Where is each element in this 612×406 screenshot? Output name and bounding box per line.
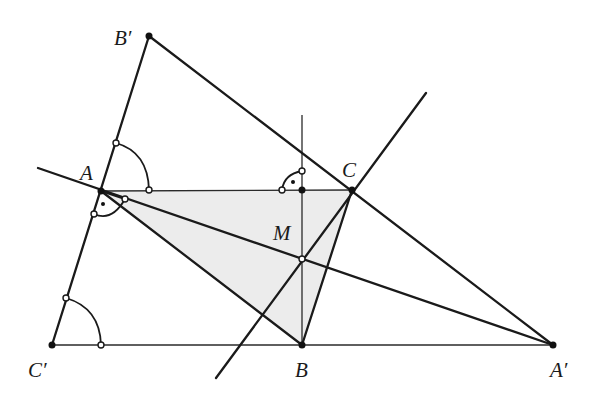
label-b-prime: B′ [114,26,132,50]
arc-end-marker [113,140,119,146]
point-a [98,188,105,195]
geometry-diagram: B′ A C M C′ B A′ [0,0,612,406]
right-angle-dot [291,180,295,184]
arc-end-marker [279,187,285,193]
point-b-prime [146,33,153,40]
foot-of-perpendicular [299,187,306,194]
label-c: C [342,158,357,182]
point-a-prime [550,342,557,349]
arc-end-marker [122,196,128,202]
label-a: A [78,161,93,185]
angle-a-dot [101,202,105,206]
shaded-triangle-acb [101,190,352,345]
point-b [299,342,306,349]
arc-end-marker [63,295,69,301]
point-c-prime [49,342,56,349]
angle-arc-at-c-prime [66,298,101,345]
label-a-prime: A′ [548,358,568,382]
label-c-prime: C′ [28,358,47,382]
label-m: M [272,221,292,245]
angle-arc-at-a-upper [116,143,149,190]
arc-end-marker [98,342,104,348]
point-c [349,187,356,194]
arc-end-marker [91,211,97,217]
point-m-marker [299,256,305,262]
label-b: B [295,358,308,382]
arc-end-marker [299,168,305,174]
arc-end-marker [146,187,152,193]
